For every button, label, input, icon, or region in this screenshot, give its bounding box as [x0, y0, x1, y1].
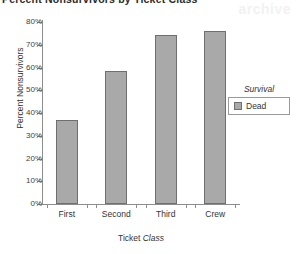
y-tick-label-wrap: 0% [0, 200, 42, 208]
y-tick-label: 20% [8, 155, 42, 163]
legend: Survival Dead [228, 84, 290, 115]
x-axis-label: Crew [191, 209, 241, 219]
x-tick-mark [96, 204, 97, 208]
x-tick-mark [87, 204, 88, 208]
x-axis-label: First [42, 209, 92, 219]
y-tick-label: 50% [8, 86, 42, 94]
y-tick-label: 70% [8, 41, 42, 49]
x-axis-label: Second [92, 209, 142, 219]
y-tick-label: 60% [8, 64, 42, 72]
y-tick-label: 40% [8, 109, 42, 117]
y-tick-label: 30% [8, 132, 42, 140]
y-axis-title: Percent Nonsurvivors [15, 18, 25, 158]
bar-chart: 0%10%20%30%40%50%60%70%80% FirstSecondTh… [0, 0, 297, 254]
x-tick-mark [195, 204, 196, 208]
y-tick-label: 80% [8, 18, 42, 26]
legend-label-dead: Dead [246, 101, 266, 111]
bar [105, 71, 127, 204]
bar [204, 31, 226, 204]
x-tick-mark [146, 204, 147, 208]
x-axis-title: Ticket Class [42, 233, 240, 243]
x-axis-title-emphasis: Class [143, 233, 164, 243]
legend-swatch-dead [234, 102, 242, 110]
x-axis-title-plain: Ticket [118, 233, 143, 243]
y-tick-label-wrap: 10% [0, 177, 42, 185]
x-tick-mark [136, 204, 137, 208]
y-axis-line [42, 20, 43, 205]
bar [56, 120, 78, 204]
legend-title: Survival [228, 84, 290, 94]
x-axis-line [42, 204, 240, 205]
x-tick-mark [47, 204, 48, 208]
y-tick-label: 0% [8, 200, 42, 208]
x-tick-mark [186, 204, 187, 208]
y-tick-label: 10% [8, 177, 42, 185]
x-axis-label: Third [141, 209, 191, 219]
legend-box: Dead [228, 97, 290, 115]
bar [155, 35, 177, 204]
x-tick-mark [235, 204, 236, 208]
